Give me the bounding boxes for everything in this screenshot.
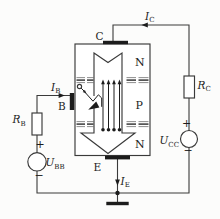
rc-label: RC — [197, 79, 211, 94]
ucc-plus-sign: + — [182, 117, 191, 130]
ucc-label: UCC — [160, 134, 180, 149]
region-p-label: P — [136, 99, 144, 112]
ie-arrowhead — [115, 180, 120, 186]
base-label: B — [58, 100, 66, 112]
region-n-bottom-label: N — [135, 138, 145, 151]
transistor-carrier-flow-figure: C B E N P N IC IB IE RB RC UBB UCC + − +… — [0, 0, 220, 219]
rb-label: RB — [12, 113, 26, 128]
ground-icon — [106, 202, 128, 205]
collector-label: C — [96, 30, 104, 42]
node-dot — [115, 191, 119, 195]
emitter-contact — [105, 156, 130, 160]
ic-arrowhead — [142, 23, 148, 28]
region-n-top-label: N — [135, 56, 145, 69]
hole-circle-icon — [77, 84, 81, 88]
ubb-plus-sign: + — [36, 138, 45, 151]
circuit-svg: C B E N P N IC IB IE RB RC UBB UCC + − +… — [0, 0, 220, 219]
ubb-minus-sign: − — [35, 169, 44, 182]
ib-label: IB — [50, 81, 60, 96]
resistor-rb — [32, 113, 42, 135]
ubb-label: UBB — [46, 156, 65, 171]
ic-label: IC — [144, 10, 155, 25]
ucc-minus-sign: − — [184, 144, 193, 157]
ie-label: IE — [120, 175, 130, 190]
collector-contact — [103, 41, 128, 44]
base-contact — [70, 93, 74, 110]
emitter-label: E — [94, 161, 102, 173]
resistor-rc — [184, 76, 195, 98]
